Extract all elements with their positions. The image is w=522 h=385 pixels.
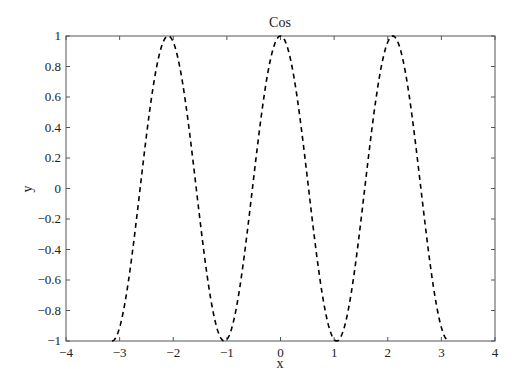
x-tick-label: −4 xyxy=(59,345,73,360)
y-tick-label: −1 xyxy=(47,333,61,348)
y-tick-label: 0.6 xyxy=(45,89,62,104)
y-tick-label: −0.6 xyxy=(37,272,61,287)
chart-title: Cos xyxy=(269,15,291,30)
y-tick-label: −0.4 xyxy=(37,242,61,257)
x-tick-label: −3 xyxy=(113,345,127,360)
y-tick-label: 1 xyxy=(55,28,62,43)
y-tick-label: 0.8 xyxy=(45,59,61,74)
x-tick-label: 1 xyxy=(331,345,338,360)
x-axis-label: x xyxy=(277,356,284,371)
y-tick-label: 0.4 xyxy=(45,120,62,135)
y-tick-label: 0.2 xyxy=(45,150,61,165)
x-tick-label: 2 xyxy=(385,345,392,360)
plot-area xyxy=(66,36,495,341)
y-tick-label: −0.8 xyxy=(37,303,61,318)
y-axis-label: y xyxy=(20,186,35,193)
x-tick-label: −2 xyxy=(166,345,180,360)
y-tick-label: 0 xyxy=(55,181,62,196)
y-tick-label: −0.2 xyxy=(37,211,61,226)
x-tick-label: 3 xyxy=(438,345,445,360)
x-tick-label: 4 xyxy=(492,345,499,360)
cos-line-chart: Cos −4−3−2−101234−1−0.8−0.6−0.4−0.200.20… xyxy=(0,0,522,385)
x-tick-label: −1 xyxy=(220,345,234,360)
